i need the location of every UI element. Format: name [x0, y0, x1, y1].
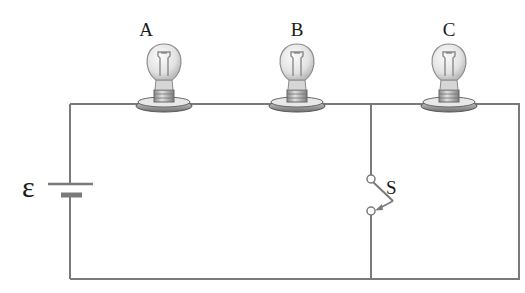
bulb-b — [269, 44, 325, 112]
bulb-b-label: B — [291, 20, 304, 39]
circuit-diagram: A B C ε S — [0, 0, 525, 293]
switch-arrow-head-icon — [375, 204, 383, 211]
battery — [48, 184, 93, 195]
bulb-c-label: C — [443, 20, 456, 39]
switch-bottom-terminal — [367, 207, 375, 215]
emf-label: ε — [22, 172, 35, 202]
wires — [70, 104, 520, 279]
bulb-a-label: A — [139, 20, 153, 39]
bulb-c — [421, 44, 477, 112]
switch-label: S — [386, 178, 397, 197]
bulb-a — [136, 44, 192, 112]
